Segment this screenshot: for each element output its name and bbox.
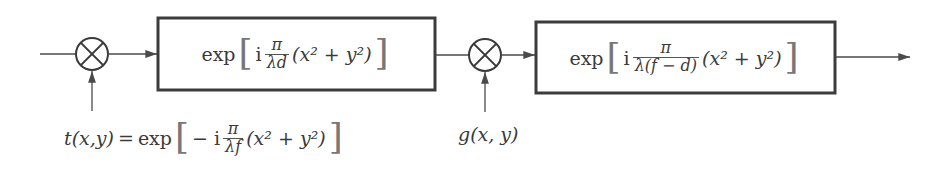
argument: (x² + y²) (246, 127, 326, 149)
func-name: exp (138, 127, 172, 149)
left-bracket: [ (239, 35, 253, 71)
denominator: λd (265, 54, 289, 72)
neg-imag-unit: − i (192, 127, 220, 149)
g-input-label: g(x, y) (458, 114, 519, 154)
right-bracket: ] (785, 39, 799, 75)
block-2-formula: exp [ i π λ(f − d) (x² + y²) ] (538, 24, 833, 91)
multiplier-2-icon (469, 39, 501, 71)
left-bracket: [ (607, 39, 621, 75)
func-name: exp (201, 43, 235, 65)
equals-sign: = (118, 127, 134, 149)
numerator: π (226, 121, 241, 138)
block-1-formula: exp [ i π λd (x² + y²) ] (160, 20, 433, 88)
fraction: π λ(f − d) (633, 40, 699, 75)
func-name: exp (569, 47, 603, 69)
t-lhs: t(x,y) (64, 127, 114, 149)
imag-unit: i (256, 43, 262, 65)
multiplier-1-icon (76, 38, 108, 70)
numerator: π (270, 37, 285, 54)
fraction: π λd (265, 37, 289, 72)
denominator: λf (223, 138, 243, 156)
denominator: λ(f − d) (633, 57, 699, 75)
argument: (x² + y²) (702, 47, 782, 69)
left-bracket: [ (175, 119, 189, 155)
numerator: π (659, 40, 674, 57)
argument: (x² + y²) (292, 43, 372, 65)
right-bracket: ] (329, 119, 343, 155)
fraction: π λf (223, 121, 243, 156)
right-bracket: ] (375, 35, 389, 71)
t-input-label: t(x,y) = exp [ − i π λf (x² + y²) ] (64, 112, 346, 164)
imag-unit: i (624, 47, 630, 69)
